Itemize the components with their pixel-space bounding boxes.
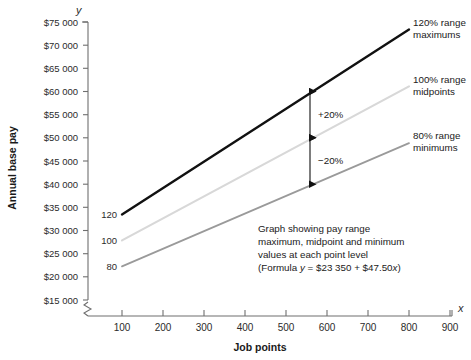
legend-100-midpoints: 100% range midpoints (413, 74, 466, 97)
legend-80-line1: 80% range (413, 130, 461, 141)
series-tag-120: 120 (101, 209, 117, 220)
chart-canvas: $75 000 $70 000 $65 000 $60 000 $55 000 … (0, 0, 471, 360)
legend-100-line2: midpoints (413, 86, 455, 97)
y-tick-label: $30 000 (44, 225, 78, 236)
x-tick-label: 600 (319, 322, 336, 333)
legend-80-line2: minimums (413, 142, 458, 153)
x-tick-label: 100 (114, 322, 131, 333)
annotation-minus-20: −20% (310, 138, 344, 184)
note-formula-prefix: (Formula (258, 262, 300, 273)
x-tick-label: 400 (237, 322, 254, 333)
y-tick-label: $50 000 (44, 132, 78, 143)
y-tick-label: $20 000 (44, 271, 78, 282)
series-line-100-midpoints (122, 86, 409, 240)
note-line-3: values at each point level (258, 249, 368, 260)
legend-120-line2: maximums (413, 29, 460, 40)
y-tick-label: $70 000 (44, 40, 78, 51)
y-axis-ticks (83, 22, 88, 300)
series-tag-100: 100 (101, 235, 117, 246)
x-tick-label: 900 (442, 322, 459, 333)
y-tick-label: $15 000 (44, 295, 78, 306)
legend-100-line1: 100% range (413, 74, 466, 85)
plus-20-label: +20% (318, 109, 344, 120)
x-axis-variable-label: x (457, 302, 464, 314)
series-line-120-maximums (122, 30, 409, 215)
series-line-80-minimums (122, 143, 409, 266)
x-tick-label: 200 (155, 322, 172, 333)
y-tick-label: $25 000 (44, 248, 78, 259)
minus-20-label: −20% (318, 155, 344, 166)
chart-note-block: Graph showing pay range maximum, midpoin… (258, 223, 404, 273)
pay-range-chart: $75 000 $70 000 $65 000 $60 000 $55 000 … (0, 0, 471, 360)
y-tick-label: $40 000 (44, 179, 78, 190)
y-axis-title: Annual base pay (6, 126, 18, 210)
y-tick-label: $75 000 (44, 17, 78, 28)
x-axis-tick-labels: 100 200 300 400 500 600 700 800 900 (114, 322, 459, 333)
y-axis-tick-labels: $75 000 $70 000 $65 000 $60 000 $55 000 … (44, 17, 78, 306)
x-tick-label: 800 (401, 322, 418, 333)
legend-120-line1: 120% range (413, 17, 466, 28)
x-tick-label: 500 (278, 322, 295, 333)
y-tick-label: $55 000 (44, 109, 78, 120)
note-line-2: maximum, midpoint and minimum (258, 236, 404, 247)
x-axis-ticks (122, 310, 450, 316)
series-tag-80: 80 (106, 261, 117, 272)
note-formula-end: ) (397, 262, 400, 273)
y-tick-label: $60 000 (44, 86, 78, 97)
y-axis-break-icon (84, 302, 91, 316)
y-tick-label: $35 000 (44, 202, 78, 213)
legend-120-maximums: 120% range maximums (413, 17, 466, 40)
y-tick-label: $65 000 (44, 63, 78, 74)
y-tick-label: $45 000 (44, 156, 78, 167)
x-tick-label: 300 (196, 322, 213, 333)
y-axis-variable-label: y (75, 4, 83, 16)
x-axis-title: Job points (233, 341, 286, 353)
note-line-4: (Formula y = $23 350 + $47.50x) (258, 262, 401, 273)
legend-80-minimums: 80% range minimums (413, 130, 461, 153)
x-tick-label: 700 (360, 322, 377, 333)
note-line-1: Graph showing pay range (258, 223, 371, 234)
note-formula-suffix: = $23 350 + $47.50 (305, 262, 393, 273)
